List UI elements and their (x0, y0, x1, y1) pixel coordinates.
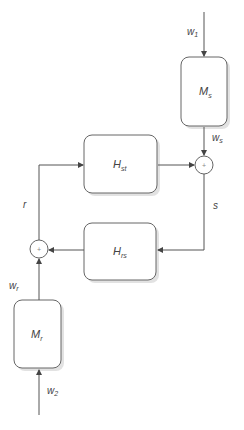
summing-junction-s: + (195, 156, 213, 174)
block-Mr: Mr (14, 300, 61, 368)
block-Hst: Hst (84, 135, 157, 193)
signal-ws: ws (212, 132, 223, 144)
signal-r: r (23, 199, 27, 210)
block-Ms: Ms (181, 57, 227, 126)
signal-s: s (213, 200, 218, 211)
block-diagram: Ms Hst Hrs Mr + + w1 (0, 0, 244, 430)
signal-w2: w2 (47, 385, 58, 397)
svg-text:+: + (202, 162, 206, 169)
signal-w1: w1 (187, 26, 198, 38)
signal-wr: wr (9, 280, 19, 292)
block-Hrs: Hrs (84, 223, 156, 280)
summing-junction-r: + (30, 240, 48, 258)
svg-text:+: + (37, 246, 41, 253)
